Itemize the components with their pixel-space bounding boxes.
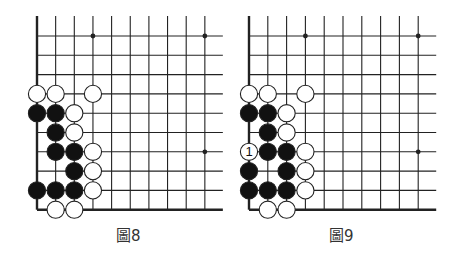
black-stone	[66, 143, 83, 160]
star-point-icon	[416, 149, 421, 154]
white-stone	[47, 85, 64, 102]
black-stone	[259, 124, 276, 141]
white-stone	[278, 124, 295, 141]
white-stone	[297, 182, 314, 199]
black-stone	[259, 143, 276, 160]
move-number-label: 1	[245, 144, 252, 159]
black-stone	[259, 105, 276, 122]
white-stone	[66, 124, 83, 141]
black-stone	[28, 182, 45, 199]
figure-9-caption: 圖9	[329, 224, 354, 245]
black-stone	[278, 143, 295, 160]
black-stone	[66, 182, 83, 199]
white-stone	[297, 85, 314, 102]
white-stone	[28, 85, 45, 102]
white-stone	[297, 143, 314, 160]
white-stone	[66, 105, 83, 122]
black-stone	[240, 163, 257, 180]
star-point-icon	[303, 34, 308, 39]
star-point-icon	[202, 149, 207, 154]
white-stone	[84, 182, 101, 199]
star-point-icon	[416, 34, 421, 39]
black-stone	[47, 143, 64, 160]
black-stone	[47, 182, 64, 199]
go-board-figure-8	[28, 16, 222, 218]
black-stone	[240, 105, 257, 122]
white-stone	[47, 201, 64, 218]
white-stone	[297, 163, 314, 180]
white-stone	[66, 201, 83, 218]
black-stone	[47, 105, 64, 122]
black-stone	[259, 182, 276, 199]
star-point-icon	[202, 34, 207, 39]
white-stone	[278, 105, 295, 122]
black-stone	[278, 163, 295, 180]
star-point-icon	[91, 34, 96, 39]
figure-8-caption: 圖8	[116, 224, 141, 245]
white-stone	[84, 143, 101, 160]
white-stone	[84, 85, 101, 102]
black-stone	[240, 182, 257, 199]
white-stone	[259, 201, 276, 218]
white-stone	[278, 201, 295, 218]
black-stone	[47, 124, 64, 141]
white-stone	[259, 85, 276, 102]
black-stone	[28, 105, 45, 122]
white-stone	[240, 85, 257, 102]
black-stone	[66, 163, 83, 180]
go-board-figure-9: 1	[240, 16, 436, 218]
go-diagrams: 1	[0, 0, 463, 253]
black-stone	[278, 182, 295, 199]
white-stone	[84, 163, 101, 180]
